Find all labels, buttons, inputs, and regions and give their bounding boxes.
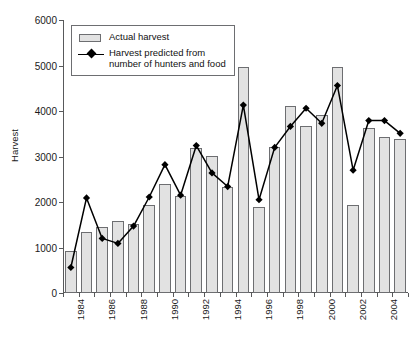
data-point-marker	[334, 82, 341, 89]
x-axis-tick-mark	[157, 293, 158, 297]
x-axis-tick-label: 1994	[232, 299, 243, 320]
x-axis-tick-mark	[408, 293, 409, 297]
data-point-marker	[99, 235, 106, 242]
x-axis-tick-mark	[94, 293, 95, 297]
x-axis-tick-label: 1984	[75, 299, 86, 320]
data-point-marker	[161, 161, 168, 168]
data-point-marker	[255, 196, 262, 203]
x-axis-tick-label: 1996	[263, 299, 274, 320]
x-axis-tick-mark	[188, 293, 189, 297]
x-axis-tick-mark	[204, 293, 205, 297]
x-axis-tick-mark	[330, 293, 331, 297]
x-axis-tick-mark	[361, 293, 362, 297]
x-axis-tick-mark	[110, 293, 111, 297]
legend-item-predicted-harvest: Harvest predicted from number of hunters…	[78, 47, 226, 69]
x-axis-tick-mark	[251, 293, 252, 297]
x-axis-tick-mark	[345, 293, 346, 297]
x-axis-tick-mark	[236, 293, 237, 297]
bar-swatch-icon	[78, 32, 104, 44]
x-axis-tick-mark	[141, 293, 142, 297]
data-point-marker	[177, 192, 184, 199]
legend-item-actual-harvest: Actual harvest	[78, 31, 226, 44]
x-axis-tick-mark	[283, 293, 284, 297]
data-point-marker	[365, 117, 372, 124]
x-axis-tick-label: 1998	[294, 299, 305, 320]
x-axis-tick-label: 1986	[106, 299, 117, 320]
x-axis-tick-mark	[377, 293, 378, 297]
harvest-chart-figure: Harvest 0100020003000400050006000 198419…	[0, 0, 415, 338]
x-axis-tick-mark	[63, 293, 64, 297]
data-point-marker	[193, 142, 200, 149]
x-axis-tick-mark	[79, 293, 80, 297]
x-axis-tick-mark	[267, 293, 268, 297]
data-point-marker	[67, 264, 74, 271]
x-axis-tick-label: 1990	[169, 299, 180, 320]
x-axis-tick-label: 2002	[357, 299, 368, 320]
x-axis-tick-label: 2000	[326, 299, 337, 320]
x-axis-tick-label: 1992	[200, 299, 211, 320]
legend-label-predicted-harvest: Harvest predicted from number of hunters…	[109, 47, 226, 69]
data-point-marker	[350, 167, 357, 174]
line-marker-icon	[78, 48, 104, 60]
x-axis-tick-label: 1988	[138, 299, 149, 320]
x-axis-tick-label: 2004	[388, 299, 399, 320]
chart-legend: Actual harvest Harvest predicted from nu…	[71, 25, 235, 76]
prediction-line	[71, 86, 400, 268]
x-axis-tick-mark	[126, 293, 127, 297]
data-point-marker	[83, 194, 90, 201]
data-point-marker	[240, 101, 247, 108]
x-axis-tick-mark	[392, 293, 393, 297]
plot-area: 0100020003000400050006000 19841986198819…	[63, 20, 408, 293]
x-axis-tick-mark	[220, 293, 221, 297]
x-axis-tick-mark	[298, 293, 299, 297]
x-axis-tick-mark	[173, 293, 174, 297]
x-axis-tick-mark	[314, 293, 315, 297]
data-point-marker	[146, 193, 153, 200]
legend-label-actual-harvest: Actual harvest	[109, 31, 169, 42]
y-axis-title: Harvest	[9, 116, 20, 176]
